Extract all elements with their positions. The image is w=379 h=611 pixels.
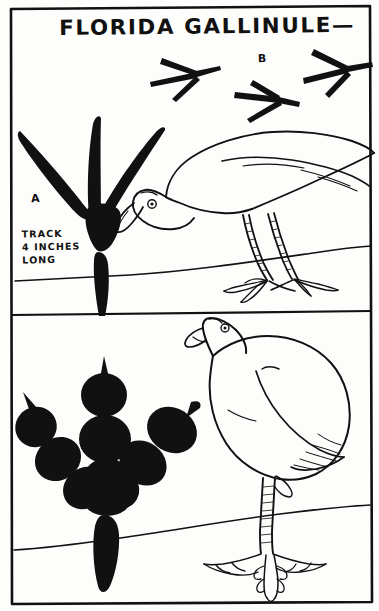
caption-gallinule-track-length: TRACK 4 INCHES LONG: [22, 227, 81, 267]
coot-lobed-foot: [204, 554, 326, 601]
track-print-3: [303, 49, 373, 98]
illustration-plate: FLORIDA GALLINULE—: [0, 0, 379, 611]
coot-ground-line: [14, 505, 370, 550]
coot-track-lobed: [8, 356, 206, 592]
track-print-1: [150, 58, 221, 102]
panel-coot: COOT C LOBED FOOT TRACK TRACK 4 INCHES L…: [0, 316, 379, 611]
gallinule-track-a: [18, 116, 165, 316]
panel-florida-gallinule: FLORIDA GALLINULE—: [0, 0, 379, 316]
mark-label-b-gallinule: B: [258, 52, 267, 65]
track-print-2: [234, 80, 300, 123]
gallinule-bird: [115, 131, 374, 302]
gallinule-foot-left: [224, 279, 295, 302]
mark-label-a-gallinule: A: [31, 192, 40, 205]
gallinule-artwork: [0, 0, 379, 316]
coot-artwork: [0, 316, 379, 611]
coot-bird: [185, 318, 350, 601]
